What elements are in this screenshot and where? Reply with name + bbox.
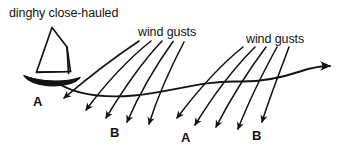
point-label-b-right: B: [252, 129, 261, 142]
gust-arrow: [195, 47, 255, 125]
title-label: dinghy close-hauled: [9, 7, 118, 20]
point-label-a-left: A: [33, 95, 42, 108]
wind-gusts-label-left: wind gusts: [138, 26, 196, 39]
dinghy-boat: [24, 28, 80, 86]
gust-arrow: [86, 41, 151, 110]
sailing-diagram: [0, 0, 358, 156]
point-label-b-left: B: [110, 126, 119, 139]
figure-canvas: dinghy close-hauled wind gusts wind gust…: [0, 0, 358, 156]
boom-line: [37, 72, 71, 73]
gust-group-left: [64, 41, 184, 124]
gust-group-right: [177, 47, 289, 129]
gust-arrow: [262, 47, 289, 122]
wind-gusts-label-right: wind gusts: [246, 33, 304, 46]
gust-arrow: [216, 47, 266, 127]
point-label-a-right: A: [181, 131, 190, 144]
gust-arrow: [149, 42, 184, 124]
sail-outline: [37, 28, 71, 73]
